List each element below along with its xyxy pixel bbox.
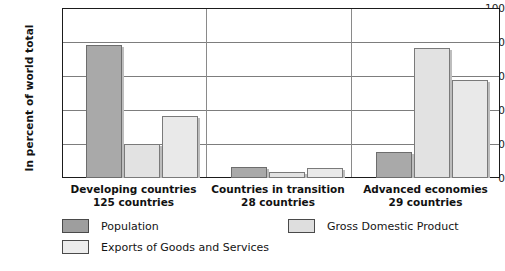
- legend-item-exports: Exports of Goods and Services: [62, 240, 269, 254]
- category-count: 29 countries: [351, 196, 500, 209]
- y-axis-title: In percent of world total: [23, 3, 35, 193]
- bar-gdp-developing: [124, 144, 160, 178]
- category-label-transition: Countries in transition 28 countries: [206, 183, 350, 209]
- bar-group-countries-in-transition: [206, 8, 350, 178]
- legend-swatch-population-icon: [62, 219, 89, 233]
- legend-item-gdp: Gross Domestic Product: [288, 219, 459, 233]
- category-name: Developing countries: [62, 183, 205, 196]
- legend-label-exports: Exports of Goods and Services: [101, 241, 269, 254]
- bar-gdp-advanced: [414, 48, 450, 178]
- category-label-developing: Developing countries 125 countries: [62, 183, 205, 209]
- bars-layer: [62, 8, 500, 178]
- bar-chart: In percent of world total 100 80 60 40 2…: [0, 0, 505, 271]
- bar-gdp-transition: [269, 172, 305, 178]
- bar-exports-advanced: [452, 80, 488, 178]
- legend-label-gdp: Gross Domestic Product: [327, 220, 459, 233]
- bar-exports-developing: [162, 116, 198, 178]
- footnote-partial: [62, 265, 322, 271]
- category-label-advanced: Advanced economies 29 countries: [351, 183, 500, 209]
- legend-label-population: Population: [101, 220, 159, 233]
- legend-swatch-gdp-icon: [288, 219, 315, 233]
- legend-swatch-exports-icon: [62, 240, 89, 254]
- category-count: 125 countries: [62, 196, 205, 209]
- category-name: Advanced economies: [351, 183, 500, 196]
- chart-legend: Population Gross Domestic Product Export…: [0, 216, 505, 261]
- category-count: 28 countries: [206, 196, 350, 209]
- bar-population-developing: [86, 45, 122, 178]
- legend-item-population: Population: [62, 219, 159, 233]
- bar-group-developing-countries: [62, 8, 205, 178]
- bar-group-advanced-economies: [351, 8, 500, 178]
- bar-exports-transition: [307, 168, 343, 178]
- category-name: Countries in transition: [206, 183, 350, 196]
- x-axis-category-labels: Developing countries 125 countries Count…: [62, 183, 500, 213]
- bar-population-transition: [231, 167, 267, 178]
- bar-population-advanced: [376, 152, 412, 178]
